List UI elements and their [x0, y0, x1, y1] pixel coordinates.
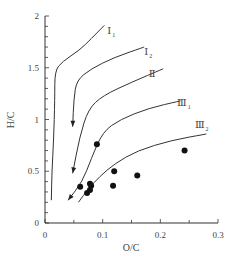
data-point [182, 148, 188, 154]
y-tick-label: 0 [35, 218, 40, 228]
x-tick-label: 0 [43, 230, 48, 240]
curve-label-i2: Ⅰ2 [144, 46, 152, 59]
data-point [110, 183, 116, 189]
arrow-icon [68, 194, 74, 200]
y-tick-label: 1.5 [28, 63, 40, 73]
chart-svg: 00.10.20.300.511.52 Ⅰ1Ⅰ2ⅡⅢ1Ⅲ2 O/C H/C [0, 0, 233, 265]
curve-i1 [51, 25, 104, 200]
data-point [94, 141, 100, 147]
arrow-icon [71, 121, 76, 127]
data-point [111, 168, 117, 174]
scatter-points [77, 141, 187, 196]
y-tick-label: 1 [35, 115, 40, 125]
chart-container: 00.10.20.300.511.52 Ⅰ1Ⅰ2ⅡⅢ1Ⅲ2 O/C H/C [0, 0, 233, 265]
curve-label-iii1: Ⅲ1 [177, 97, 191, 110]
curve-label-iii2: Ⅲ2 [195, 119, 209, 132]
data-point [87, 181, 93, 187]
arrow-icon [71, 167, 76, 173]
y-tick-label: 2 [35, 11, 40, 21]
x-tick-label: 0.3 [212, 230, 224, 240]
curve-label-ii: Ⅱ [149, 68, 156, 79]
curve-i2 [73, 47, 145, 127]
curve-label-i1: Ⅰ1 [107, 25, 115, 38]
data-point [134, 172, 140, 178]
y-axis-label: H/C [5, 111, 16, 128]
curves [51, 25, 206, 202]
x-tick-label: 0.1 [97, 230, 108, 240]
curve-iii1 [68, 101, 180, 200]
y-tick-label: 0.5 [28, 166, 40, 176]
data-point [77, 184, 83, 190]
x-axis-label: O/C [123, 242, 140, 253]
x-tick-label: 0.2 [155, 230, 166, 240]
curve-labels: Ⅰ1Ⅰ2ⅡⅢ1Ⅲ2 [107, 25, 208, 132]
